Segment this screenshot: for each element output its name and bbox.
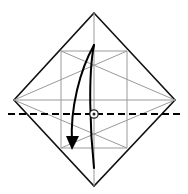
reference-point-marker (90, 110, 98, 118)
origami-diagram (0, 0, 188, 194)
origami-canvas (0, 0, 188, 194)
reference-point-inner-dot (93, 113, 96, 116)
